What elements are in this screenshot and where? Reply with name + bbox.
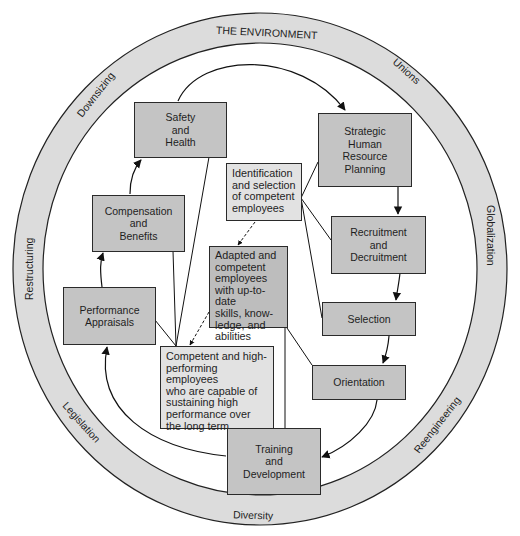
step-label: Training and Development bbox=[243, 443, 305, 481]
label-globalization: Globalization bbox=[485, 205, 497, 266]
step-training-and-development: Training and Development bbox=[227, 428, 321, 495]
step-label: Performance Appraisals bbox=[79, 304, 139, 329]
outcome-competent-employees: Competent and high- performing employees… bbox=[160, 346, 274, 429]
label-diversity: Diversity bbox=[233, 508, 274, 521]
step-label: Orientation bbox=[333, 376, 384, 389]
step-strategic-hrp: Strategic Human Resource Planning bbox=[318, 113, 412, 187]
step-recruitment-and-decruitment: Recruitment and Decruitment bbox=[331, 216, 426, 274]
step-label: Compensation and Benefits bbox=[105, 205, 173, 243]
outcome-label: Identification and selection of competen… bbox=[232, 168, 296, 214]
outcome-identification: Identification and selection of competen… bbox=[226, 163, 302, 221]
step-orientation: Orientation bbox=[312, 365, 406, 400]
outcome-label: Adapted and competent employees with up-… bbox=[215, 250, 282, 343]
step-selection: Selection bbox=[322, 302, 416, 336]
outcome-label: Competent and high- performing employees… bbox=[166, 351, 268, 432]
step-safety-and-health: Safety and Health bbox=[134, 102, 227, 158]
label-restructuring: Restructuring bbox=[23, 237, 35, 300]
outcome-adapted-employees: Adapted and competent employees with up-… bbox=[209, 246, 288, 328]
step-label: Recruitment and Decruitment bbox=[350, 226, 407, 264]
step-compensation-and-benefits: Compensation and Benefits bbox=[92, 195, 185, 252]
step-label: Strategic Human Resource Planning bbox=[343, 125, 388, 175]
step-performance-appraisals: Performance Appraisals bbox=[63, 287, 156, 345]
step-label: Selection bbox=[347, 313, 390, 326]
step-label: Safety and Health bbox=[165, 111, 195, 149]
